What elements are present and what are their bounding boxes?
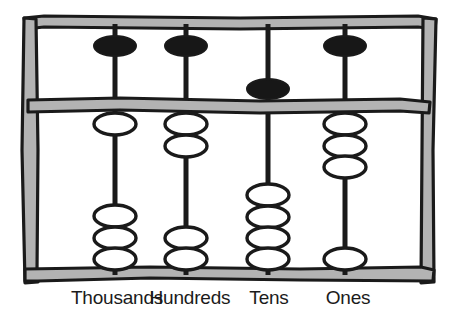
right-post: [421, 18, 436, 283]
abacus-figure: Thousands Hundreds Tens Ones: [0, 0, 459, 322]
lower-bead-hundreds-3[interactable]: [165, 227, 207, 249]
upper-bead-ones[interactable]: [324, 36, 366, 56]
column-labels: Thousands Hundreds Tens Ones: [0, 287, 459, 319]
bottom-rail: [25, 267, 434, 281]
upper-beads: [94, 36, 366, 99]
lower-bead-thousands-4[interactable]: [94, 248, 136, 270]
upper-bead-tens[interactable]: [247, 79, 289, 99]
lower-bead-hundreds-4[interactable]: [165, 248, 207, 270]
lower-bead-ones-3[interactable]: [324, 156, 366, 178]
column-label-tens: Tens: [249, 287, 288, 309]
lower-bead-hundreds-1[interactable]: [165, 113, 207, 135]
top-rail: [24, 16, 436, 29]
upper-bead-thousands[interactable]: [94, 36, 136, 56]
lower-bead-ones-2[interactable]: [324, 135, 366, 157]
column-label-hundreds: Hundreds: [150, 287, 231, 309]
abacus-rods: [115, 24, 345, 275]
left-post: [22, 18, 38, 283]
lower-bead-thousands-1[interactable]: [94, 113, 136, 135]
lower-bead-hundreds-2[interactable]: [165, 135, 207, 157]
lower-bead-tens-3[interactable]: [247, 227, 289, 249]
lower-bead-ones-4[interactable]: [324, 248, 366, 270]
lower-bead-tens-4[interactable]: [247, 248, 289, 270]
upper-bead-hundreds[interactable]: [165, 36, 207, 56]
lower-bead-thousands-2[interactable]: [94, 205, 136, 227]
lower-bead-thousands-3[interactable]: [94, 227, 136, 249]
lower-bead-tens-2[interactable]: [247, 206, 289, 228]
column-label-ones: Ones: [326, 287, 371, 309]
lower-beads-tens: [247, 184, 289, 270]
lower-bead-tens-1[interactable]: [247, 184, 289, 206]
abacus-frame: [22, 16, 436, 283]
abacus-drawing: [0, 0, 459, 322]
divider-bar: [28, 98, 430, 113]
lower-bead-ones-1[interactable]: [324, 113, 366, 135]
